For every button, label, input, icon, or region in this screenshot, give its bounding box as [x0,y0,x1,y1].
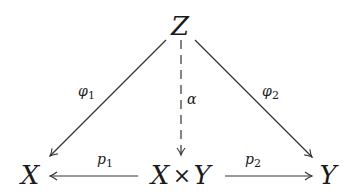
label-p1-symbol: p [97,151,106,167]
label-p2: p 2 [245,151,261,170]
node-x: X [19,160,41,190]
label-p2-symbol: p [245,151,254,167]
label-phi2-symbol: φ [262,83,272,99]
label-phi2-subscript: 2 [272,89,279,102]
label-phi1-subscript: 1 [88,89,95,102]
node-product-x: X [149,160,171,190]
label-phi1: φ 1 [78,83,95,102]
label-p2-subscript: 2 [254,157,261,170]
node-product-y: Y [193,160,213,190]
arrow-phi2 [195,40,312,157]
node-z: Z [170,11,190,41]
label-alpha-symbol: α [187,91,197,107]
label-alpha: α [187,91,197,107]
label-phi1-symbol: φ [78,83,88,99]
label-p1: p 1 [97,151,113,170]
node-y: Y [319,160,339,190]
commutative-diagram: Z X X × Y Y φ 1 φ 2 α p 1 p 2 [0,0,364,195]
arrow-phi1 [50,40,166,156]
label-p1-subscript: 1 [106,157,113,170]
label-phi2: φ 2 [262,83,279,102]
node-product-times: × [173,163,191,188]
